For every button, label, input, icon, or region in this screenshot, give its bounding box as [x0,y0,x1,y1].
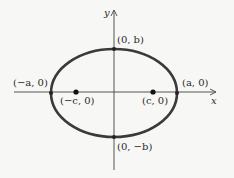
top-vertex-label: (0, b) [117,34,144,45]
left-focus-label: (−c, 0) [60,95,95,106]
right-focus-label: (c, 0) [142,95,168,106]
right-vertex-label: (a, 0) [182,77,209,88]
left-vertex-label: (−a, 0) [13,77,48,88]
right-focus-point [150,89,155,94]
top-vertex-point [112,47,116,51]
y-axis-label: y [103,7,110,18]
bottom-vertex-point [112,135,116,139]
right-vertex-point [175,91,179,95]
left-focus-point [73,89,78,94]
bottom-vertex-label: (0, −b) [117,141,152,152]
left-vertex-point [49,91,53,95]
ellipse-diagram: y x (0, b) (0, −b) (−a, 0) (a, 0) (−c, 0… [0,0,234,178]
x-axis-label: x [211,95,217,106]
